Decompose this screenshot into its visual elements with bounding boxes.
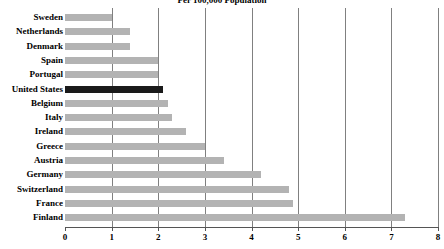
x-tick-6 [345,227,346,231]
category-label-denmark: Denmark [27,42,64,51]
x-tick-label-4: 4 [249,232,254,242]
bar-austria [65,157,224,164]
bar-france [65,200,293,207]
gridline-3 [205,8,206,227]
category-label-germany: Germany [27,170,64,179]
x-tick-7 [391,227,392,231]
gridline-7 [391,8,392,227]
bar-chart: Per 100,000 Population SwedenNetherlands… [0,0,444,249]
bar-netherlands [65,28,130,35]
category-label-portugal: Portugal [30,70,64,79]
bar-denmark [65,43,130,50]
x-tick-label-3: 3 [203,232,208,242]
bar-ireland [65,128,186,135]
x-tick-2 [158,227,159,231]
category-label-united-states: United States [12,85,63,94]
bar-greece [65,143,205,150]
category-label-belgium: Belgium [31,99,63,108]
gridline-5 [298,8,299,227]
x-tick-label-8: 8 [436,232,441,242]
category-label-netherlands: Netherlands [16,27,63,36]
category-label-sweden: Sweden [33,13,63,22]
category-label-switzerland: Switzerland [17,185,63,194]
x-tick-1 [112,227,113,231]
x-tick-label-6: 6 [343,232,348,242]
bar-spain [65,57,158,64]
bar-germany [65,171,261,178]
x-tick-4 [252,227,253,231]
category-label-france: France [36,199,63,208]
x-tick-0 [65,227,66,231]
bar-portugal [65,71,158,78]
x-tick-label-1: 1 [109,232,114,242]
gridline-6 [345,8,346,227]
x-tick-label-2: 2 [156,232,161,242]
category-label-finland: Finland [33,213,63,222]
bar-belgium [65,100,168,107]
bar-italy [65,114,172,121]
x-tick-3 [205,227,206,231]
bar-sweden [65,14,112,21]
category-label-ireland: Ireland [35,127,63,136]
gridline-4 [252,8,253,227]
category-label-greece: Greece [36,142,63,151]
x-tick-label-0: 0 [63,232,68,242]
x-tick-5 [298,227,299,231]
bar-finland [65,214,405,221]
x-tick-label-5: 5 [296,232,301,242]
bar-united-states [65,86,163,93]
x-tick-label-7: 7 [389,232,394,242]
category-label-italy: Italy [45,113,63,122]
category-label-spain: Spain [41,56,63,65]
gridline-8 [438,8,439,227]
chart-title: Per 100,000 Population [0,0,444,5]
bar-switzerland [65,186,289,193]
category-label-austria: Austria [34,156,63,165]
x-tick-8 [438,227,439,231]
